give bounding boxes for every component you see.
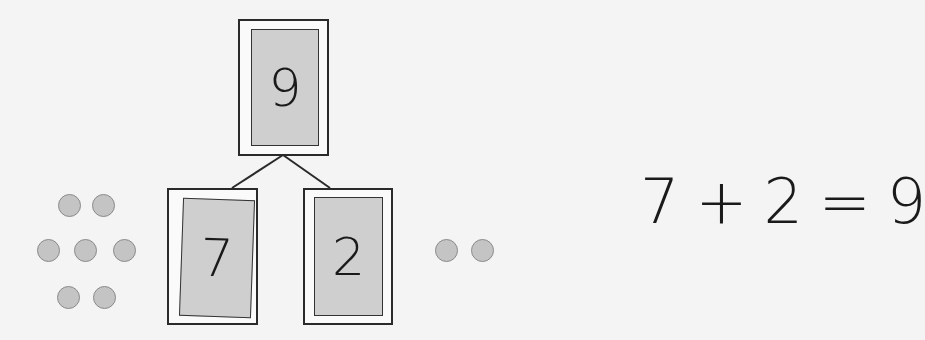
counter bbox=[57, 286, 80, 309]
part-right-card: 2 bbox=[314, 197, 383, 316]
counter bbox=[74, 239, 97, 262]
counter bbox=[37, 239, 60, 262]
equation-sum: 9 bbox=[887, 165, 925, 238]
counter bbox=[92, 194, 115, 217]
equation-plus: + bbox=[695, 165, 749, 238]
counter bbox=[471, 239, 494, 262]
connector-left bbox=[232, 155, 283, 188]
equation: 7+2=9 bbox=[640, 165, 925, 238]
part-left-card: 7 bbox=[179, 198, 255, 318]
whole-card: 9 bbox=[251, 29, 319, 146]
counter bbox=[58, 194, 81, 217]
equation-equals: = bbox=[819, 165, 873, 238]
part-right-value: 2 bbox=[332, 227, 365, 287]
counter bbox=[93, 286, 116, 309]
part-left-box: 7 bbox=[167, 188, 258, 325]
part-right-box: 2 bbox=[303, 188, 393, 325]
counter bbox=[113, 239, 136, 262]
whole-value: 9 bbox=[268, 58, 301, 118]
counter bbox=[435, 239, 458, 262]
connector-right bbox=[283, 155, 330, 188]
equation-addend-1: 7 bbox=[640, 165, 681, 238]
equation-addend-2: 2 bbox=[763, 165, 804, 238]
part-left-value: 7 bbox=[199, 227, 234, 288]
whole-box: 9 bbox=[238, 19, 329, 156]
